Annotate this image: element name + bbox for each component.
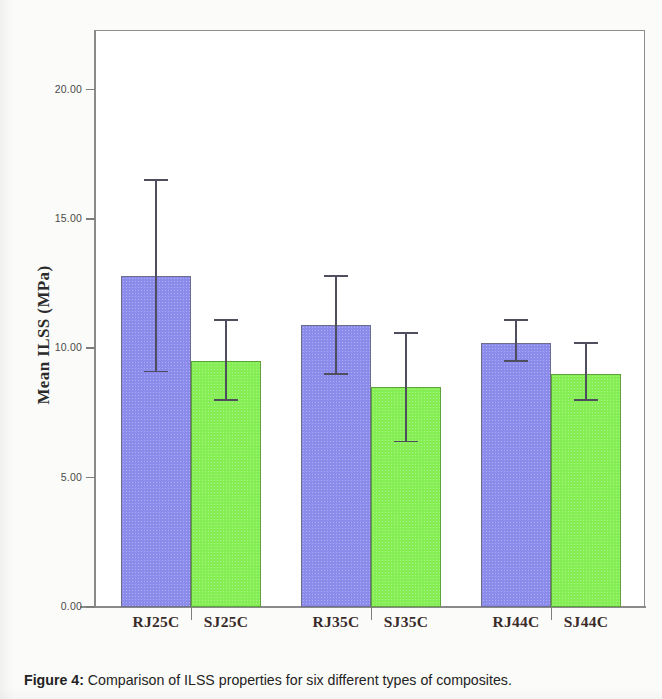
y-axis-tick [86,606,95,608]
x-axis-group-tick [371,607,372,620]
y-axis-tick [86,89,95,91]
x-axis-label-rj25c: RJ25C [116,613,196,631]
figure-caption: Figure 4: Comparison of ILSS properties … [24,672,656,689]
error-cap-lower [214,399,238,401]
caption-label: Figure 4: [24,672,84,688]
x-axis-label-rj35c: RJ35C [296,613,376,631]
error-cap-lower [394,441,418,443]
error-cap-lower [504,360,528,362]
error-bar-rj25c [155,180,156,371]
y-axis-tick-label: 0.00 [12,600,82,612]
y-axis-tick-label: 10.00 [12,341,82,353]
caption-text: Comparison of ILSS properties for six di… [84,672,512,688]
x-axis-label-sj35c: SJ35C [366,613,446,631]
x-axis-group-tick [191,607,192,620]
error-bar-sj44c [585,343,586,400]
error-bar-sj35c [405,333,406,442]
error-bar-sj25c [225,320,226,400]
error-cap-upper [214,319,238,321]
y-axis-tick [86,477,95,479]
figure-chart: Mean ILSS (MPa) 0.005.0010.0015.0020.00 … [0,0,662,645]
y-axis-title: Mean ILSS (MPa) [34,245,54,425]
error-bar-rj35c [335,276,336,374]
error-cap-upper [394,332,418,334]
bar-sj44c [551,374,621,607]
error-cap-lower [574,399,598,401]
x-axis-label-rj44c: RJ44C [476,613,556,631]
y-axis-tick [86,347,95,349]
error-cap-upper [504,319,528,321]
error-bar-rj44c [515,320,516,361]
y-axis-tick-label: 20.00 [12,83,82,95]
bar-rj44c [481,343,551,607]
y-axis-tick [86,218,95,220]
error-cap-upper [324,275,348,277]
y-axis-tick-label: 15.00 [12,212,82,224]
x-axis-group-tick [551,607,552,620]
y-axis-tick-label: 5.00 [12,471,82,483]
error-cap-upper [144,179,168,181]
error-cap-lower [144,371,168,373]
bars-layer [95,30,645,607]
x-axis-label-sj44c: SJ44C [546,613,626,631]
x-axis-label-sj25c: SJ25C [186,613,266,631]
error-cap-upper [574,342,598,344]
error-cap-lower [324,373,348,375]
